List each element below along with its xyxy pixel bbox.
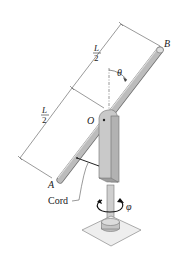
label-cord: Cord <box>48 195 68 206</box>
label-theta: θ <box>117 67 122 78</box>
label-B: B <box>164 38 170 49</box>
svg-text:L: L <box>41 105 47 115</box>
pin-O <box>103 119 105 121</box>
svg-text:2: 2 <box>94 53 99 63</box>
cord-leader <box>72 163 88 201</box>
dimension-lines <box>18 22 160 178</box>
shaft <box>107 185 114 220</box>
rod-diagram: B A O θ φ Cord L 2 L 2 <box>0 0 184 259</box>
half-length-top: L 2 <box>93 43 101 63</box>
cord-line <box>77 158 99 166</box>
svg-text:L: L <box>93 43 99 53</box>
bracket <box>99 110 119 182</box>
label-A: A <box>47 179 55 190</box>
svg-text:2: 2 <box>42 115 47 125</box>
label-O: O <box>87 115 94 126</box>
half-length-bottom: L 2 <box>41 105 49 125</box>
label-phi: φ <box>126 201 132 212</box>
